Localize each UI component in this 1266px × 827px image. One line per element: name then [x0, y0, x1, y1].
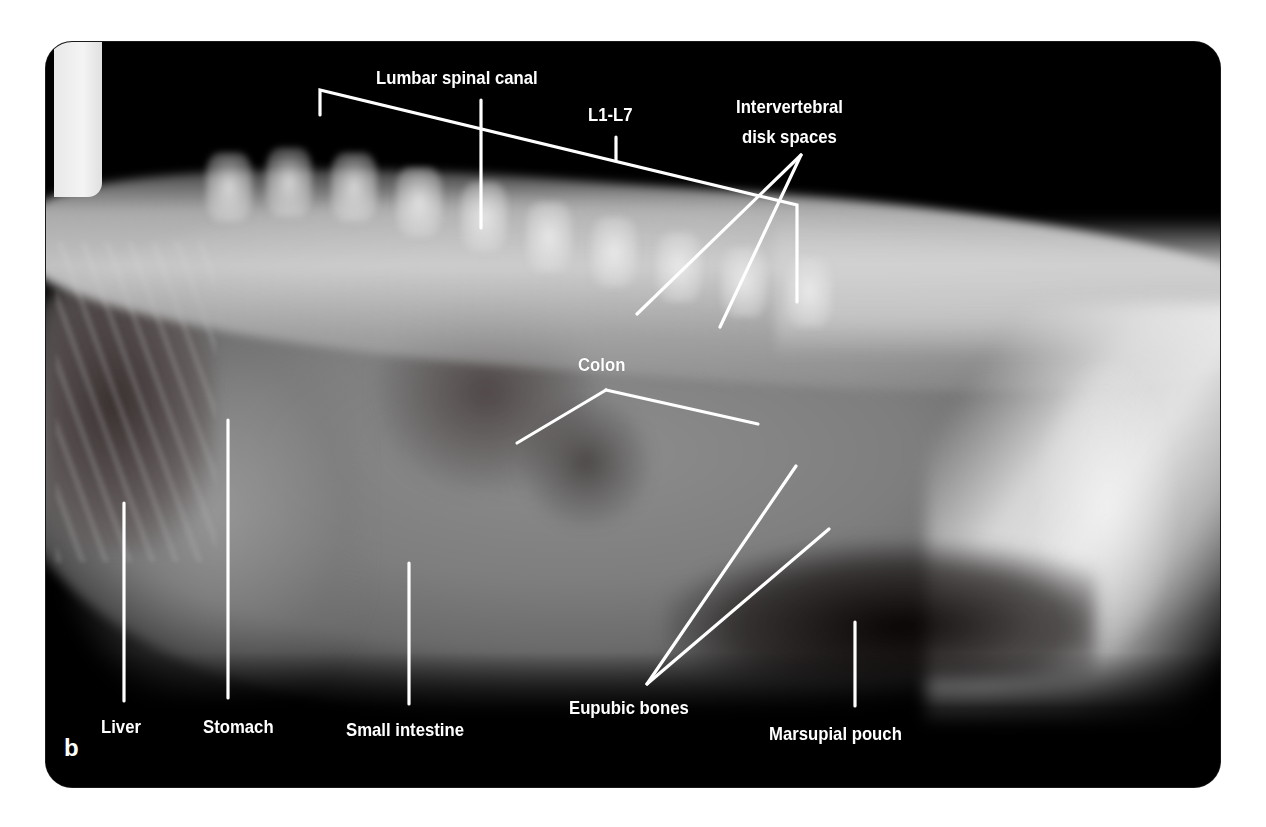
- colon-left-line: [517, 390, 606, 443]
- label-liver: Liver: [101, 716, 141, 738]
- label-l1-l7: L1-L7: [588, 104, 633, 126]
- label-intervertebral: Intervertebral: [736, 96, 843, 118]
- colon-right-line: [606, 390, 758, 424]
- label-disk-spaces: disk spaces: [742, 126, 837, 148]
- label-colon: Colon: [578, 354, 625, 376]
- label-small-intestine: Small intestine: [346, 719, 464, 741]
- label-eupubic-bones: Eupubic bones: [569, 697, 689, 719]
- disk-space-1-line: [637, 155, 801, 314]
- panel-letter: b: [64, 734, 79, 762]
- label-marsupial-pouch: Marsupial pouch: [769, 723, 902, 745]
- lumbar-bracket-line: [320, 90, 797, 302]
- disk-space-2-line: [720, 155, 801, 327]
- label-stomach: Stomach: [203, 716, 274, 738]
- label-lumbar-spinal-canal: Lumbar spinal canal: [376, 67, 538, 89]
